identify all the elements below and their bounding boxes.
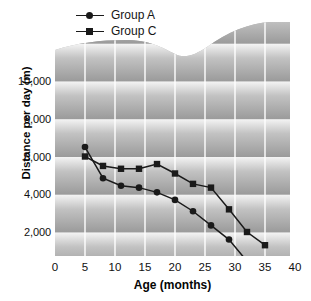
plot-background	[55, 14, 290, 256]
y-axis-title: Distance per day (m)	[20, 48, 32, 198]
plot-area	[55, 14, 290, 256]
plot-svg	[55, 14, 290, 256]
data-point	[136, 184, 143, 191]
x-tick-label-25: 25	[192, 261, 218, 273]
chart-container: 10,000 8,000 6,000 4,000 2,000 0 5 10 15…	[0, 0, 311, 301]
data-point	[190, 181, 196, 187]
x-tick-label-10: 10	[102, 261, 128, 273]
x-tick-label-20: 20	[162, 261, 188, 273]
data-point	[208, 184, 214, 190]
data-point	[226, 236, 233, 243]
y-tick-label-2000: 2,000	[0, 226, 51, 238]
data-point	[262, 242, 268, 248]
data-point	[190, 208, 197, 215]
x-tick-label-30: 30	[222, 261, 248, 273]
data-point	[100, 163, 106, 169]
data-point	[172, 170, 178, 176]
square-marker-icon	[76, 25, 104, 37]
legend-label-group-c: Group C	[111, 24, 156, 38]
data-point	[244, 229, 250, 235]
data-point	[172, 197, 179, 204]
circle-marker-icon	[76, 9, 104, 21]
x-tick-label-40: 40	[282, 261, 308, 273]
x-tick-label-15: 15	[132, 261, 158, 273]
data-point	[82, 153, 88, 159]
x-tick-label-0: 0	[42, 261, 68, 273]
x-axis-title: Age (months)	[55, 278, 290, 292]
data-point	[118, 182, 125, 189]
data-point	[118, 166, 124, 172]
legend-label-group-a: Group A	[111, 8, 155, 22]
data-point	[100, 175, 107, 182]
x-tick-label-5: 5	[72, 261, 98, 273]
data-point	[226, 206, 232, 212]
data-point	[82, 144, 89, 151]
data-point	[154, 189, 161, 196]
chart-legend: Group A Group C	[76, 8, 156, 40]
data-point	[136, 166, 142, 172]
x-tick-label-35: 35	[252, 261, 278, 273]
data-point	[208, 222, 215, 229]
legend-item-group-c: Group C	[76, 24, 156, 38]
legend-item-group-a: Group A	[76, 8, 156, 22]
data-point	[154, 161, 160, 167]
